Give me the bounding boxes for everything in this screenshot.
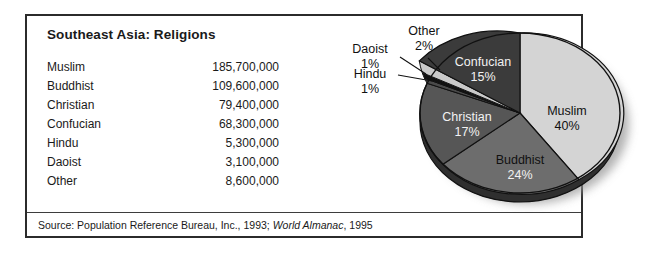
row-value: 68,300,000 [219,115,279,134]
table-row: Buddhist 109,600,000 [47,77,279,96]
table-row: Hindu 5,300,000 [47,134,279,153]
row-value: 3,100,000 [226,153,279,172]
slice-label-daoist-name: Daoist [352,42,388,56]
slice-label-hindu-name: Hindu [354,67,387,81]
religion-table: Muslim 185,700,000 Buddhist 109,600,000 … [47,58,279,191]
page-title: Southeast Asia: Religions [47,27,216,42]
pie-chart: Muslim 40% Buddhist 24% Christian 17% Co… [340,8,654,248]
table-row: Other 8,600,000 [47,172,279,191]
slice-label-other-name: Other [408,24,439,38]
row-value: 79,400,000 [219,96,279,115]
slice-label-confucian-pct: 15% [470,70,495,84]
slice-label-hindu-pct: 1% [361,82,379,96]
row-value: 185,700,000 [212,58,279,77]
source-note: Source: Population Reference Bureau, Inc… [38,219,373,231]
source-publication: World Almanac [273,219,344,231]
table-row: Christian 79,400,000 [47,96,279,115]
row-value: 5,300,000 [226,134,279,153]
slice-label-christian-pct: 17% [454,125,479,139]
slice-label-buddhist-name: Buddhist [496,153,545,167]
table-row: Daoist 3,100,000 [47,153,279,172]
row-value: 8,600,000 [226,172,279,191]
slice-label-confucian-name: Confucian [455,55,511,69]
table-row: Muslim 185,700,000 [47,58,279,77]
row-label: Confucian [47,115,101,134]
slice-label-muslim-name: Muslim [547,104,587,118]
row-value: 109,600,000 [212,77,279,96]
row-label: Muslim [47,58,85,77]
row-label: Daoist [47,153,81,172]
figure-page: Southeast Asia: Religions Muslim 185,700… [0,0,654,256]
table-row: Confucian 68,300,000 [47,115,279,134]
row-label: Other [47,172,77,191]
slice-label-buddhist-pct: 24% [507,168,532,182]
row-label: Christian [47,96,94,115]
slice-label-other-pct: 2% [415,39,433,53]
slice-label-muslim-pct: 40% [554,119,579,133]
slice-label-christian-name: Christian [442,110,491,124]
row-label: Hindu [47,134,78,153]
source-prefix: Source: Population Reference Bureau, Inc… [38,219,273,231]
pie-chart-svg: Muslim 40% Buddhist 24% Christian 17% Co… [340,8,654,248]
row-label: Buddhist [47,77,94,96]
